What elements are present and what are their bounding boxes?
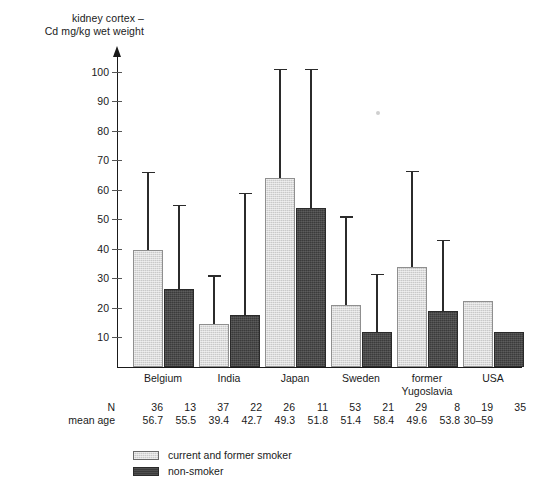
y-axis-tick xyxy=(112,131,122,132)
stats-value: 22 xyxy=(228,401,262,413)
error-bar-cap xyxy=(142,172,155,173)
y-axis-tick xyxy=(112,249,122,250)
y-axis-tick-label: 20 xyxy=(97,303,109,313)
chart-legend: current and former smoker non-smoker xyxy=(133,447,292,479)
legend-label: current and former smoker xyxy=(168,449,292,461)
stats-value: 19 xyxy=(459,401,493,413)
error-bar-line xyxy=(310,69,311,208)
stats-value: 11 xyxy=(294,401,328,413)
y-axis-line xyxy=(117,57,118,367)
stats-value: 26 xyxy=(261,401,295,413)
scan-artifact-dot xyxy=(376,111,380,115)
legend-swatch-dark-icon xyxy=(133,467,159,476)
bar-non-smoker xyxy=(296,208,326,367)
error-bar-line xyxy=(411,171,412,267)
plot-area: 102030405060708090100 xyxy=(117,57,522,367)
legend-item: non-smoker xyxy=(133,463,292,479)
y-axis-tick-label: 10 xyxy=(97,332,109,342)
x-axis-label-usa: USA xyxy=(445,372,541,385)
error-bar-cap xyxy=(437,240,450,241)
legend-swatch-light-icon xyxy=(133,451,159,460)
stats-value: 36 xyxy=(129,401,163,413)
y-axis-tick xyxy=(112,278,122,279)
error-bar-cap xyxy=(208,275,221,276)
y-axis-tick xyxy=(112,219,122,220)
stats-value: 51.4 xyxy=(327,414,361,426)
stats-value: 8 xyxy=(426,401,460,413)
y-axis-tick-label: 80 xyxy=(97,126,109,136)
legend-label: non-smoker xyxy=(168,465,223,477)
stats-value: 30–59 xyxy=(459,414,493,426)
stats-value: 51.8 xyxy=(294,414,328,426)
bar-non-smoker xyxy=(428,311,458,367)
y-axis-tick-label: 30 xyxy=(97,273,109,283)
stats-value: 56.7 xyxy=(129,414,163,426)
error-bar-line xyxy=(279,69,280,178)
stats-row-label: mean age xyxy=(5,414,115,426)
error-bar-cap xyxy=(173,205,186,206)
stats-value: 13 xyxy=(162,401,196,413)
stats-value: 42.7 xyxy=(228,414,262,426)
error-bar-cap xyxy=(239,193,252,194)
y-axis-tick xyxy=(112,72,122,73)
stats-value: 49.6 xyxy=(393,414,427,426)
bar-non-smoker xyxy=(164,289,194,367)
y-axis-label: kidney cortex – Cd mg/kg wet weight xyxy=(28,12,144,38)
stats-value: 37 xyxy=(195,401,229,413)
y-axis-tick-label: 100 xyxy=(91,67,109,77)
bar-smoker xyxy=(463,301,493,367)
stats-value: 39.4 xyxy=(195,414,229,426)
y-axis-tick xyxy=(112,190,122,191)
error-bar-line xyxy=(376,274,377,332)
y-axis-tick xyxy=(112,160,122,161)
stats-value: 55.5 xyxy=(162,414,196,426)
y-axis-tick xyxy=(112,101,122,102)
bar-smoker xyxy=(133,250,163,367)
legend-item: current and former smoker xyxy=(133,447,292,463)
bar-non-smoker xyxy=(494,332,524,367)
error-bar-line xyxy=(244,193,245,316)
error-bar-cap xyxy=(274,69,287,70)
y-axis-tick-label: 90 xyxy=(97,96,109,106)
bar-non-smoker xyxy=(362,332,392,367)
y-axis-tick-label: 70 xyxy=(97,155,109,165)
bar-non-smoker xyxy=(230,315,260,367)
stats-value: 35 xyxy=(492,401,526,413)
stats-value: 58.4 xyxy=(360,414,394,426)
stats-value: 21 xyxy=(360,401,394,413)
stats-value: 53 xyxy=(327,401,361,413)
bar-smoker xyxy=(397,267,427,367)
x-axis-line xyxy=(117,367,522,368)
stats-value: 29 xyxy=(393,401,427,413)
error-bar-line xyxy=(147,172,148,250)
y-axis-tick-label: 40 xyxy=(97,244,109,254)
stats-value: 49.3 xyxy=(261,414,295,426)
bar-smoker xyxy=(199,324,229,367)
error-bar-line xyxy=(178,205,179,289)
error-bar-cap xyxy=(371,274,384,275)
y-axis-tick xyxy=(112,337,122,338)
error-bar-cap xyxy=(340,216,353,217)
y-axis-tick-label: 60 xyxy=(97,185,109,195)
y-axis-tick xyxy=(112,308,122,309)
chart-root: kidney cortex – Cd mg/kg wet weight 1020… xyxy=(0,0,547,489)
error-bar-line xyxy=(442,240,443,311)
bar-smoker xyxy=(265,178,295,367)
error-bar-line xyxy=(345,216,346,305)
error-bar-cap xyxy=(406,171,419,172)
bar-smoker xyxy=(331,305,361,367)
error-bar-line xyxy=(213,275,214,324)
y-axis-tick-label: 50 xyxy=(97,214,109,224)
error-bar-cap xyxy=(305,69,318,70)
stats-value: 53.8 xyxy=(426,414,460,426)
stats-row-label: N xyxy=(5,401,115,413)
y-axis-arrow-icon xyxy=(113,46,121,57)
